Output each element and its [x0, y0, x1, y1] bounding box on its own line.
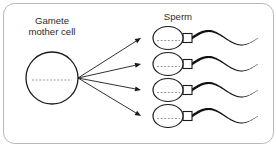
mother-cell-label-line1: Gamete	[35, 15, 69, 26]
sperm-midpiece	[183, 86, 192, 95]
sperm-midpiece	[183, 112, 192, 121]
sperm-head	[153, 53, 183, 76]
sperm-label: Sperm	[164, 11, 192, 22]
sperm-head	[153, 27, 183, 50]
gamete-mother-cell	[26, 52, 78, 104]
diagram-canvas: Gametemother cellSperm	[0, 0, 276, 153]
sperm-head	[153, 79, 183, 102]
sperm-midpiece	[183, 34, 192, 43]
mother-cell-label-line2: mother cell	[29, 26, 76, 37]
biology-diagram: Gametemother cellSperm	[0, 0, 276, 153]
sperm-head	[153, 105, 183, 128]
sperm-midpiece	[183, 60, 192, 69]
